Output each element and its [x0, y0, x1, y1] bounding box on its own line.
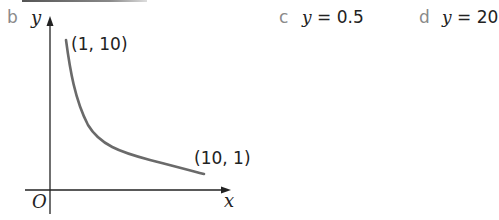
part-d-rest: = 20	[452, 7, 499, 27]
part-c-var: y	[302, 7, 312, 27]
part-d-label: d	[419, 7, 430, 27]
y-axis-arrow-icon	[47, 16, 54, 26]
hyperbola-graph: y x O (1, 10) (10, 1)	[0, 0, 260, 220]
part-d-equation: y = 20	[442, 7, 498, 27]
part-c-rest: = 0.5	[312, 7, 364, 27]
x-axis-label: x	[224, 190, 234, 211]
y-axis-label: y	[30, 7, 42, 28]
origin-label: O	[32, 191, 47, 212]
curve	[66, 40, 204, 174]
point-label-1-10: (1, 10)	[71, 34, 128, 54]
part-c-equation: y = 0.5	[302, 7, 364, 27]
part-c-label: c	[279, 7, 288, 27]
part-d-var: y	[442, 7, 452, 27]
point-label-10-1: (10, 1)	[194, 148, 251, 168]
